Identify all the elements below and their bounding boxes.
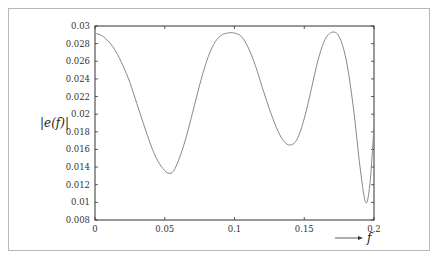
y-tick-label: 0.016: [66, 144, 90, 154]
y-tick-label: 0.014: [66, 162, 90, 172]
x-tick-label: 0.15: [295, 224, 314, 234]
y-tick-label: 0.012: [66, 180, 90, 190]
x-tick-label: 0.1: [228, 224, 242, 234]
plot-axes-box: [95, 26, 374, 220]
line-chart: 0.0080.010.0120.0140.0160.0180.020.0220.…: [0, 0, 438, 259]
y-tick-label: 0.02: [71, 109, 90, 119]
y-tick-label: 0.024: [66, 74, 90, 84]
x-tick-label: 0.05: [155, 224, 174, 234]
y-tick-label: 0.022: [66, 92, 90, 102]
y-tick-label: 0.028: [66, 39, 90, 49]
y-tick-label: 0.008: [66, 215, 90, 225]
x-tick-label: 0: [92, 224, 97, 234]
x-axis-ticks: 00.050.10.150.2: [92, 26, 380, 234]
arrow-right-icon: [358, 236, 363, 240]
y-tick-label: 0.018: [66, 127, 90, 137]
y-axis-label: |e(f)|: [40, 116, 69, 130]
error-curve: [95, 32, 374, 203]
y-tick-label: 0.03: [71, 21, 90, 31]
y-tick-label: 0.026: [66, 56, 90, 66]
y-tick-label: 0.01: [71, 197, 90, 207]
y-axis-ticks: 0.0080.010.0120.0140.0160.0180.020.0220.…: [66, 21, 374, 225]
